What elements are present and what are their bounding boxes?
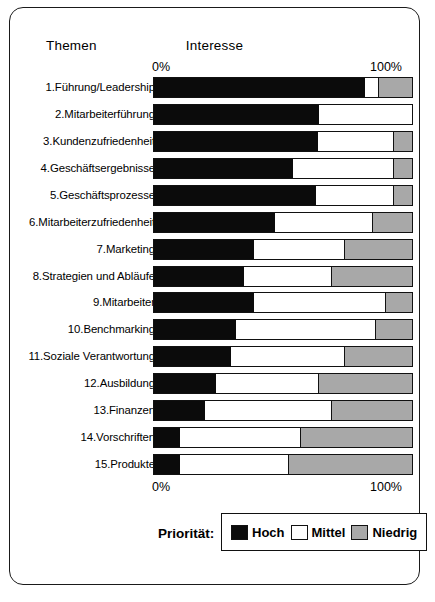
legend-label: Hoch xyxy=(252,525,285,540)
bar-segment-mittel xyxy=(205,401,331,420)
bar-segment-niedrig xyxy=(318,374,412,393)
bar-row-label: 7.Marketing xyxy=(97,243,155,255)
bar-segment-mittel xyxy=(180,455,288,474)
bar-segment-niedrig xyxy=(288,455,412,474)
bar-row-label: 13.Finanzen xyxy=(93,404,155,416)
chart-frame: Themen Interesse 0% 100% 1.Führung/Leade… xyxy=(9,7,420,585)
bar-segment-hoch xyxy=(154,78,365,97)
bar-segment-hoch xyxy=(154,293,254,312)
bar-row: 11.Soziale Verantwortung xyxy=(10,344,421,371)
bar-row-label: 5.Geschäftsprozesse xyxy=(50,189,155,201)
legend-swatch-niedrig xyxy=(351,525,368,540)
bar-segment-hoch xyxy=(154,347,231,366)
bar-row: 1.Führung/Leadership xyxy=(10,75,421,102)
legend-item: Niedrig xyxy=(351,525,417,540)
legend-swatch-mittel xyxy=(291,525,308,540)
legend: Priorität: HochMittelNiedrig xyxy=(10,513,421,559)
bar-row: 9.Mitarbeiter xyxy=(10,290,421,317)
axis-top-tick-0: 0% xyxy=(152,60,170,74)
bar-row-label: 9.Mitarbeiter xyxy=(93,296,155,308)
bar-segment-niedrig xyxy=(331,401,412,420)
legend-swatch-hoch xyxy=(231,525,248,540)
plot-area: 1.Führung/Leadership2.Mitarbeiterführung… xyxy=(10,75,421,479)
bar-track xyxy=(153,427,413,448)
bar-row: 8.Strategien und Abläufe xyxy=(10,264,421,291)
bar-row-label: 14.Vorschriften xyxy=(81,431,155,443)
bar-row: 15.Produkte xyxy=(10,452,421,479)
bar-row: 10.Benchmarking xyxy=(10,317,421,344)
bar-row-label: 3.Kundenzufriedenheit xyxy=(43,135,155,147)
bar-track xyxy=(153,346,413,367)
bar-track xyxy=(153,400,413,421)
bar-segment-niedrig xyxy=(372,213,412,232)
bar-segment-mittel xyxy=(254,240,344,259)
bar-track xyxy=(153,77,413,98)
axis-bottom-tick-0: 0% xyxy=(152,480,170,494)
bar-segment-mittel xyxy=(254,293,385,312)
bar-segment-mittel xyxy=(236,320,375,339)
bar-segment-niedrig xyxy=(385,293,412,312)
bar-segment-mittel xyxy=(293,159,393,178)
bar-segment-niedrig xyxy=(393,159,412,178)
bar-track xyxy=(153,292,413,313)
bar-track xyxy=(153,212,413,233)
bar-row: 3.Kundenzufriedenheit xyxy=(10,129,421,156)
bar-row-label: 4.Geschäftsergebnisse xyxy=(41,162,155,174)
legend-caption: Priorität: xyxy=(158,526,214,541)
bar-segment-niedrig xyxy=(344,347,412,366)
legend-label: Niedrig xyxy=(372,525,417,540)
bar-track xyxy=(153,373,413,394)
bar-segment-hoch xyxy=(154,132,318,151)
bar-segment-mittel xyxy=(180,428,301,447)
bar-segment-mittel xyxy=(318,132,393,151)
bar-row-label: 8.Strategien und Abläufe xyxy=(33,270,155,282)
bar-segment-niedrig xyxy=(393,132,412,151)
bar-segment-mittel xyxy=(244,267,331,286)
bar-row: 2.Mitarbeiterführung xyxy=(10,102,421,129)
bar-row: 4.Geschäftsergebnisse xyxy=(10,156,421,183)
bar-segment-niedrig xyxy=(378,78,412,97)
bar-segment-hoch xyxy=(154,320,236,339)
bar-row-label: 1.Führung/Leadership xyxy=(46,81,155,93)
axis-top-tick-100: 100% xyxy=(370,60,402,74)
bar-segment-hoch xyxy=(154,455,180,474)
bar-segment-hoch xyxy=(154,213,275,232)
bar-row-label: 10.Benchmarking xyxy=(68,323,155,335)
bar-track xyxy=(153,319,413,340)
bar-track xyxy=(153,185,413,206)
bar-segment-mittel xyxy=(365,78,378,97)
bar-segment-hoch xyxy=(154,267,244,286)
axis-bottom: 0% 100% xyxy=(10,480,421,496)
bar-segment-mittel xyxy=(316,186,393,205)
bar-track xyxy=(153,131,413,152)
bar-row-label: 12.Ausbildung xyxy=(84,377,155,389)
bar-row: 13.Finanzen xyxy=(10,398,421,425)
axis-bottom-tick-100: 100% xyxy=(370,480,402,494)
axis-top: 0% 100% xyxy=(10,60,421,76)
bar-row-label: 2.Mitarbeiterführung xyxy=(55,108,155,120)
bar-row-label: 11.Soziale Verantwortung xyxy=(28,350,155,362)
bar-segment-hoch xyxy=(154,105,319,124)
bar-segment-niedrig xyxy=(344,240,412,259)
bar-track xyxy=(153,239,413,260)
bar-segment-niedrig xyxy=(331,267,412,286)
bar-row: 12.Ausbildung xyxy=(10,371,421,398)
bar-segment-mittel xyxy=(319,105,412,124)
bar-segment-mittel xyxy=(231,347,344,366)
bar-row: 6.Mitarbeiterzufriedenheit xyxy=(10,210,421,237)
bar-segment-hoch xyxy=(154,401,205,420)
legend-item: Mittel xyxy=(291,525,346,540)
bar-row: 7.Marketing xyxy=(10,237,421,264)
bar-segment-mittel xyxy=(275,213,373,232)
bar-segment-hoch xyxy=(154,159,293,178)
bar-segment-hoch xyxy=(154,186,316,205)
bar-row: 5.Geschäftsprozesse xyxy=(10,183,421,210)
bar-segment-mittel xyxy=(216,374,319,393)
bar-track xyxy=(153,266,413,287)
chart-header: Themen Interesse xyxy=(10,38,419,58)
bar-row-label: 6.Mitarbeiterzufriedenheit xyxy=(29,216,155,228)
bar-track xyxy=(153,454,413,475)
bar-row-label: 15.Produkte xyxy=(95,458,155,470)
bar-track xyxy=(153,104,413,125)
legend-box: HochMittelNiedrig xyxy=(221,513,427,551)
